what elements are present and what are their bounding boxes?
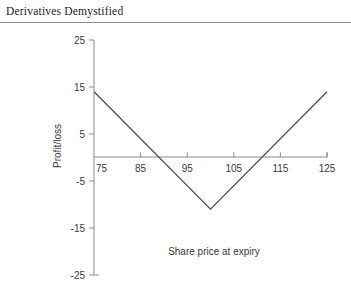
x-tick-label: 105 [225, 163, 242, 174]
x-tick-label: 75 [96, 163, 108, 174]
y-tick-label: 5 [79, 129, 85, 140]
payoff-line [94, 92, 327, 210]
chart-svg: 25155-5-15-25 758595105115125 Share pric… [0, 24, 351, 288]
header-rule [0, 22, 351, 23]
payoff-chart: 25155-5-15-25 758595105115125 Share pric… [0, 24, 351, 288]
x-axis: 758595105115125 [94, 152, 336, 174]
running-head: Derivatives Demystified [6, 5, 123, 17]
y-tick-labels: 25155-5-15-25 [71, 35, 86, 281]
y-tick-label: -5 [76, 176, 85, 187]
x-tick-label: 115 [272, 163, 288, 174]
y-tick-label: -15 [71, 223, 86, 234]
figure-page: Derivatives Demystified 25155-5-15-25 75… [0, 0, 351, 288]
y-axis-title: Profit/loss [52, 124, 63, 168]
x-tick-labels: 758595105115125 [96, 163, 336, 174]
y-tick-marks [89, 40, 94, 275]
y-tick-label: -25 [71, 270, 86, 281]
data-series-group [94, 92, 327, 210]
x-axis-title: Share price at expiry [168, 246, 260, 257]
y-tick-label: 25 [74, 35, 86, 46]
x-tick-label: 85 [135, 163, 147, 174]
x-tick-label: 95 [182, 163, 194, 174]
x-tick-label: 125 [319, 163, 336, 174]
y-tick-label: 15 [74, 82, 86, 93]
